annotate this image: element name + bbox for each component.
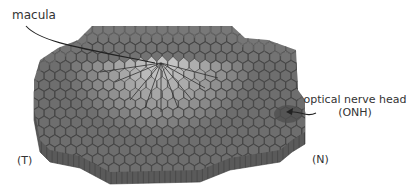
onh-label-line2: (ONH) bbox=[300, 106, 410, 119]
onh-label-line1: optical nerve head bbox=[300, 93, 410, 106]
onh-label: optical nerve head (ONH) bbox=[300, 93, 410, 119]
optical-nerve-head-patch bbox=[274, 105, 302, 123]
macula-label: macula bbox=[12, 9, 56, 22]
nasal-label: (N) bbox=[312, 153, 329, 166]
temporal-label: (T) bbox=[17, 154, 32, 167]
